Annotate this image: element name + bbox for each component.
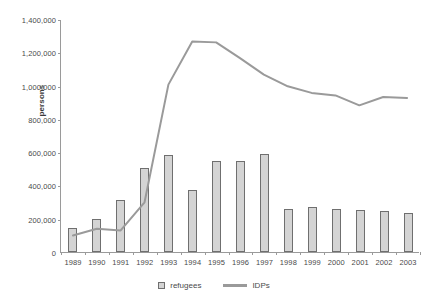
legend-item-refugees[interactable]: refugees [158, 281, 201, 290]
y-tick-label: 1,000,000 [22, 82, 56, 91]
legend-bar-swatch-icon [158, 282, 165, 289]
x-tick-mark [229, 252, 230, 255]
x-tick-label: 1989 [64, 258, 81, 267]
x-tick-mark [276, 252, 277, 255]
x-tick-mark [85, 252, 86, 255]
x-tick-mark [396, 252, 397, 255]
x-tick-mark [133, 252, 134, 255]
x-tick-mark [324, 252, 325, 255]
x-tick-label: 1992 [136, 258, 153, 267]
y-tick-label: 0 [52, 249, 56, 258]
x-tick-label: 2002 [376, 258, 393, 267]
chart-container: persons 0200,000400,000600,000800,0001,0… [0, 0, 428, 303]
y-tick-label: 600,000 [28, 149, 56, 158]
x-tick-mark [348, 252, 349, 255]
idps-polyline [73, 42, 407, 236]
legend-item-label: IDPs [252, 281, 269, 290]
x-tick-mark [420, 252, 421, 255]
chart-legend: refugeesIDPs [0, 281, 428, 290]
x-tick-label: 1995 [208, 258, 225, 267]
x-tick-label: 1993 [160, 258, 177, 267]
x-tick-label: 2000 [328, 258, 345, 267]
x-tick-mark [157, 252, 158, 255]
plot-area: 0200,000400,000600,000800,0001,000,0001,… [60, 20, 419, 253]
y-tick-label: 1,400,000 [22, 16, 56, 25]
x-tick-mark [372, 252, 373, 255]
y-tick-label: 200,000 [28, 215, 56, 224]
y-tick-label: 400,000 [28, 182, 56, 191]
y-tick-label: 1,200,000 [22, 49, 56, 58]
legend-item-label: refugees [170, 281, 201, 290]
idps-line-series [61, 20, 419, 252]
x-tick-label: 2003 [399, 258, 416, 267]
y-axis-title: persons [37, 66, 46, 136]
x-tick-mark [109, 252, 110, 255]
x-tick-label: 1998 [280, 258, 297, 267]
x-tick-label: 1990 [88, 258, 105, 267]
legend-line-swatch-icon [223, 284, 247, 287]
x-tick-label: 2001 [352, 258, 369, 267]
x-tick-label: 1999 [304, 258, 321, 267]
x-tick-mark [181, 252, 182, 255]
x-tick-mark [300, 252, 301, 255]
x-tick-label: 1994 [184, 258, 201, 267]
x-tick-label: 1996 [232, 258, 249, 267]
legend-item-IDPs[interactable]: IDPs [223, 281, 269, 290]
x-tick-mark [205, 252, 206, 255]
x-tick-label: 1991 [112, 258, 129, 267]
x-tick-mark [61, 252, 62, 255]
x-tick-mark [252, 252, 253, 255]
y-tick-label: 800,000 [28, 115, 56, 124]
x-tick-label: 1997 [256, 258, 273, 267]
